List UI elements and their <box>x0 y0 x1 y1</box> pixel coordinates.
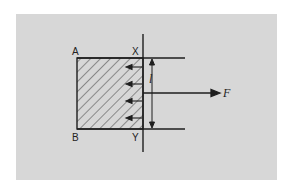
label-force: F <box>223 87 230 99</box>
label-y: Y <box>132 133 139 143</box>
label-length: l <box>149 73 152 85</box>
label-a: A <box>72 47 79 57</box>
force-arrow <box>143 90 220 97</box>
diagram-figure <box>0 0 289 191</box>
label-x: X <box>132 47 139 57</box>
label-b: B <box>72 133 79 143</box>
